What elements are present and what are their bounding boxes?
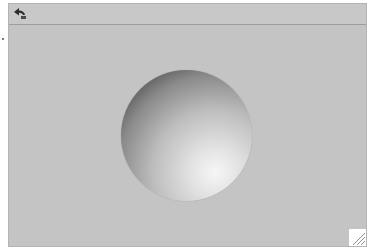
toolbar xyxy=(9,4,366,25)
back-button[interactable] xyxy=(12,6,28,22)
sphere-object[interactable] xyxy=(121,70,252,201)
viewer-panel xyxy=(8,3,367,247)
resize-handle[interactable] xyxy=(349,229,366,246)
resize-grip-icon xyxy=(349,229,366,246)
stray-mark xyxy=(2,38,4,40)
back-arrow-icon xyxy=(12,6,28,22)
render-canvas[interactable] xyxy=(9,25,366,246)
